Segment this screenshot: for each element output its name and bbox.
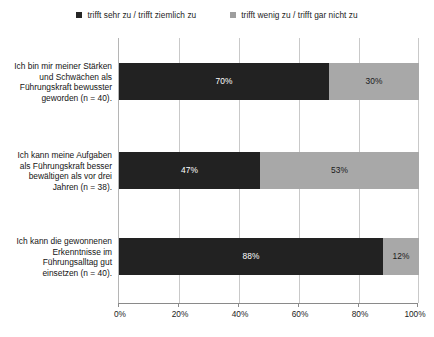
legend-swatch-icon-light [230,12,236,18]
x-axis-label-100: 100% [404,309,425,319]
category-label-3-line-4: einsetzen (n = 40). [0,268,112,279]
x-axis-tick-0 [118,303,119,307]
category-label-3-line-1: Ich kann die gewonnenen [0,236,112,247]
bar-segment-light-1: 30% [329,63,419,100]
x-axis-tick-20 [178,303,179,307]
bar-segment-light-3: 12% [383,238,419,275]
bar-value-label-dark-2: 47% [181,166,198,174]
x-axis-label-60: 60% [292,309,309,319]
x-axis-label-0: 0% [114,309,126,319]
category-label-1-line-2: und Schwächen als [0,72,112,83]
plot-area: 70% 30% 47% 53% 88% 12% [118,38,418,303]
bar-segment-dark-3: 88% [119,238,383,275]
x-axis-label-80: 80% [352,309,369,319]
legend-label-dark: trifft sehr zu / trifft ziemlich zu [87,11,196,19]
stacked-bar-chart: trifft sehr zu / trifft ziemlich zu trif… [0,0,434,337]
legend-swatch-icon-dark [76,12,82,18]
table-row: 70% 30% [119,63,419,100]
legend-label-light: trifft wenig zu / trifft gar nicht zu [241,11,357,19]
x-axis-line [118,303,418,304]
legend-entry-trifft-sehr-zu: trifft sehr zu / trifft ziemlich zu [76,11,196,19]
chart-legend: trifft sehr zu / trifft ziemlich zu trif… [0,11,434,19]
bar-value-label-light-2: 53% [331,166,348,174]
category-label-2-line-1: Ich kann meine Aufgaben [0,150,112,161]
table-row: 47% 53% [119,152,419,189]
category-label-1-line-1: Ich bin mir meiner Stärken [0,61,112,72]
bar-segment-dark-1: 70% [119,63,329,100]
legend-entry-trifft-wenig-zu: trifft wenig zu / trifft gar nicht zu [230,11,357,19]
bar-value-label-dark-3: 88% [243,252,260,260]
table-row: 88% 12% [119,238,419,275]
category-label-1: Ich bin mir meiner Stärken und Schwächen… [0,61,112,103]
category-label-1-line-4: geworden (n = 40). [0,93,112,104]
category-label-3-line-3: Führungsalltag gut [0,257,112,268]
bar-segment-light-2: 53% [260,152,419,189]
x-axis-label-40: 40% [232,309,249,319]
category-label-2-line-2: als Führungskraft besser [0,161,112,172]
footer-text-fragment [0,331,434,337]
category-label-3: Ich kann die gewonnenen Erkenntnisse im … [0,236,112,278]
x-axis-tick-100 [417,303,418,307]
x-axis-tick-40 [238,303,239,307]
bar-segment-dark-2: 47% [119,152,260,189]
category-label-3-line-2: Erkenntnisse im [0,247,112,258]
x-axis-label-20: 20% [172,309,189,319]
bar-value-label-light-1: 30% [366,77,383,85]
bar-value-label-dark-1: 70% [216,77,233,85]
x-axis-tick-80 [358,303,359,307]
category-label-2-line-4: Jahren (n = 38). [0,182,112,193]
bar-value-label-light-3: 12% [393,252,410,260]
category-label-2-line-3: bewältigen als vor drei [0,171,112,182]
category-label-2: Ich kann meine Aufgaben als Führungskraf… [0,150,112,192]
x-axis-tick-60 [298,303,299,307]
category-label-1-line-3: Führungskraft bewusster [0,82,112,93]
